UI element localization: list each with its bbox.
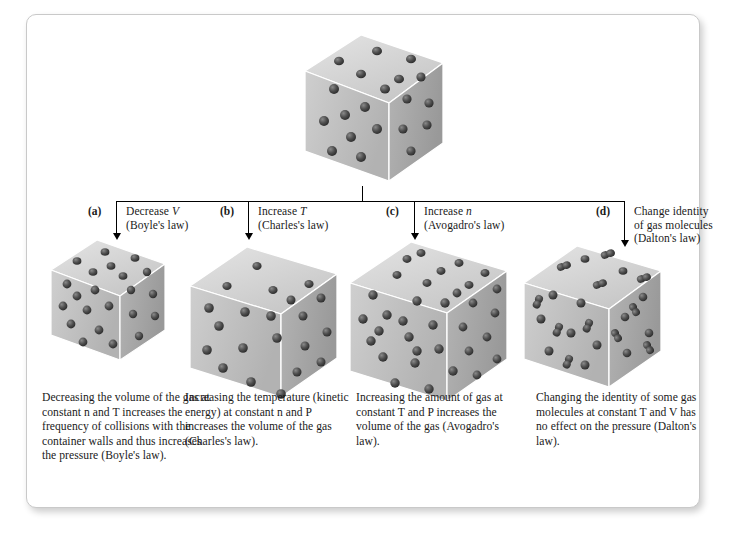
branch-tag-c: (c) — [386, 205, 399, 218]
caption-d: Changing the identity of some gas molecu… — [536, 391, 704, 449]
branch-law-c: (Avogadro's law) — [424, 219, 504, 233]
branch-var-c: n — [466, 205, 472, 217]
caption-c: Increasing the amount of gas at constant… — [356, 391, 524, 449]
branch-arrow-c — [414, 201, 415, 234]
branch-arrow-b — [248, 201, 249, 234]
branch-action-d2: of gas molecules — [634, 219, 713, 233]
branch-action-c: Increase — [424, 205, 466, 217]
cube-branch-d — [519, 241, 667, 393]
branch-law-b: (Charles's law) — [258, 219, 328, 233]
branch-action-b: Increase — [258, 205, 300, 217]
branch-law-a: (Boyle's law) — [126, 219, 188, 233]
branch-arrow-d — [624, 201, 625, 241]
cube-geometry — [350, 242, 507, 401]
figure-frame: (a) Decrease V (Boyle's law) (b) Increas… — [26, 14, 700, 508]
branch-label-c: Increase n (Avogadro's law) — [424, 205, 504, 232]
branch-action-d: Change identity — [634, 205, 713, 219]
branch-var-b: T — [300, 205, 307, 217]
branch-label-d: Change identity of gas molecules (Dalton… — [634, 205, 713, 246]
connector-bus — [116, 201, 624, 202]
branch-var-a: V — [172, 205, 179, 217]
caption-b: Increasing the temperature (kinetic ener… — [185, 391, 353, 449]
branch-tag-a: (a) — [88, 205, 101, 218]
cube-geometry — [305, 35, 443, 181]
connector-stem — [362, 186, 363, 202]
cube-geometry — [51, 240, 165, 360]
branch-label-a: Decrease V (Boyle's law) — [126, 205, 188, 232]
cube-geometry — [190, 247, 337, 397]
branch-label-b: Increase T (Charles's law) — [258, 205, 328, 232]
cube-initial-sample — [299, 29, 449, 187]
cube-branch-a — [47, 236, 169, 364]
branch-action-a: Decrease — [126, 205, 172, 217]
branch-tag-d: (d) — [596, 205, 610, 218]
branch-tag-b: (b) — [220, 205, 234, 218]
branch-arrow-a — [116, 201, 117, 234]
cube-branch-c — [345, 237, 513, 407]
cube-branch-b — [185, 242, 343, 402]
